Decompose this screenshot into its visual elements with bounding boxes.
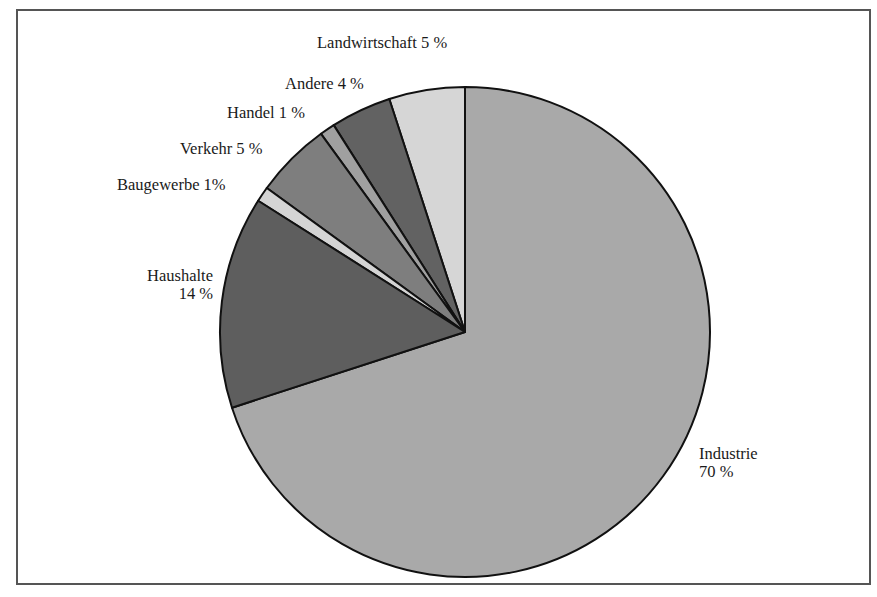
label-verkehr: Verkehr 5 % [180,140,262,158]
label-industrie: Industrie 70 % [699,445,758,481]
label-industrie-value: 70 % [699,463,758,481]
label-landwirtschaft: Landwirtschaft 5 % [317,34,447,52]
label-baugewerbe: Baugewerbe 1% [117,176,226,194]
label-andere: Andere 4 % [285,75,364,93]
label-handel: Handel 1 % [227,104,305,122]
label-haushalte: Haushalte 14 % [130,267,213,303]
label-haushalte-value: 14 % [130,285,213,303]
label-haushalte-name: Haushalte [130,267,213,285]
label-industrie-name: Industrie [699,445,758,463]
